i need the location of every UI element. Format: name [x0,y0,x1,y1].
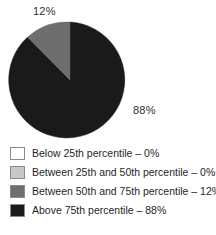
legend-label-above-75th: Above 75th percentile – 88% [32,205,166,216]
legend-item-25th-50th: Between 25th and 50th percentile – 0% [0,163,216,182]
legend-label-25th-50th: Between 25th and 50th percentile – 0% [32,167,215,178]
legend-swatch-below-25th [10,147,25,160]
legend-swatch-25th-50th [10,166,25,179]
chart-legend: Below 25th percentile – 0% Between 25th … [0,144,216,220]
pie-chart-svg [0,0,216,142]
pie-data-label-12: 12% [33,5,56,17]
legend-item-50th-75th: Between 50th and 75th percentile – 12% [0,182,216,201]
legend-label-below-25th: Below 25th percentile – 0% [32,148,159,159]
pie-data-label-88: 88% [133,104,156,116]
legend-item-above-75th: Above 75th percentile – 88% [0,201,216,220]
pie-chart-plot-area: 12% 88% [0,0,216,142]
pie-chart-figure: 12% 88% Below 25th percentile – 0% Betwe… [0,0,216,235]
legend-label-50th-75th: Between 50th and 75th percentile – 12% [32,186,216,197]
legend-swatch-50th-75th [10,185,25,198]
legend-swatch-above-75th [10,204,25,217]
legend-item-below-25th: Below 25th percentile – 0% [0,144,216,163]
